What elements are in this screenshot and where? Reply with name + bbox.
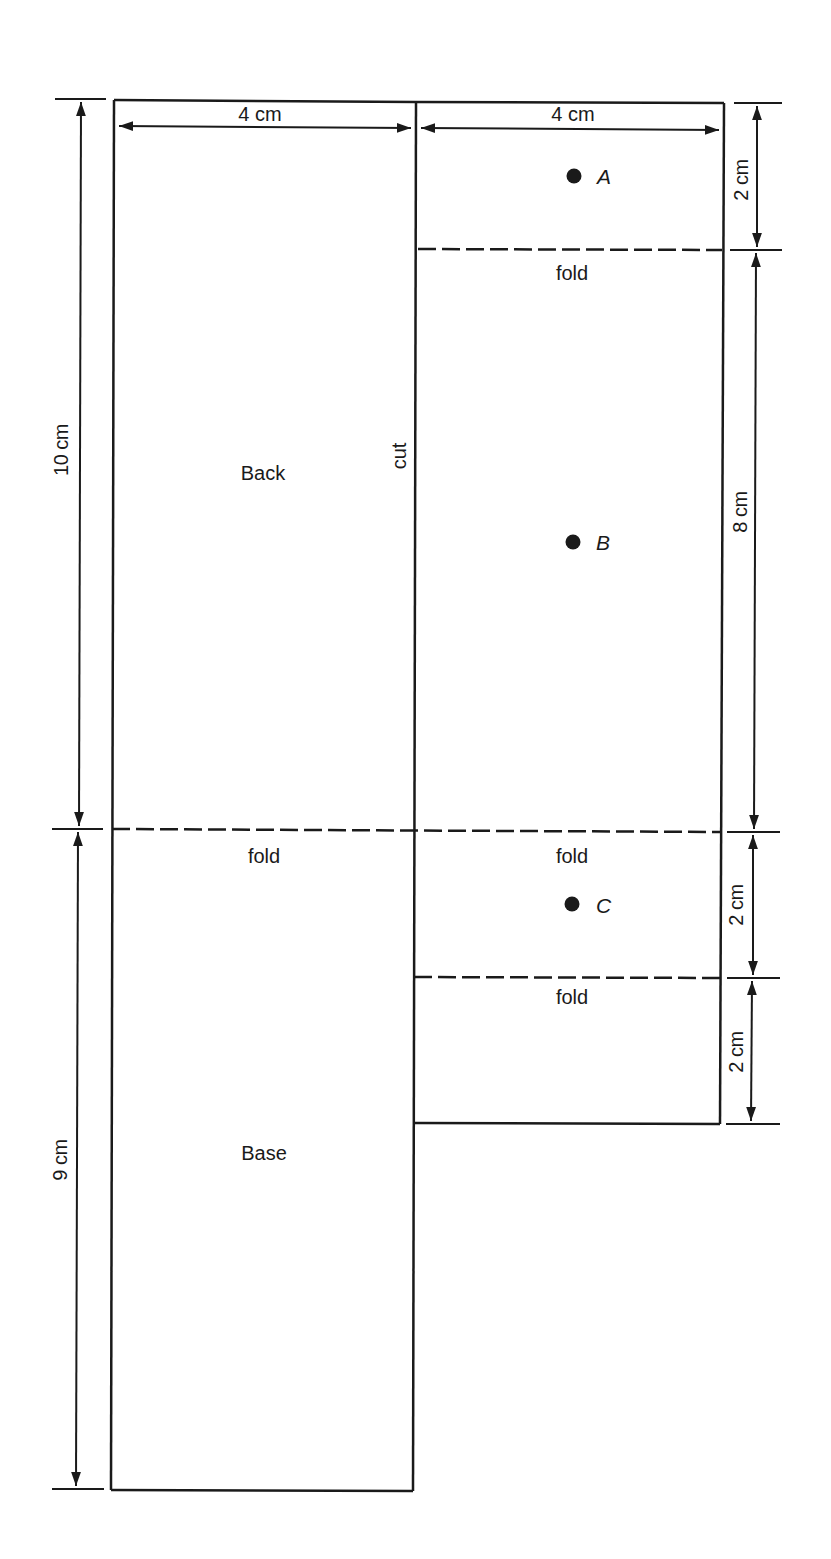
fold-label-right-bottom: fold xyxy=(556,986,588,1008)
dim-label-base-height: 9 cm xyxy=(49,1139,71,1180)
fold-label-right-middle: fold xyxy=(556,845,588,867)
net-diagram: 4 cm 4 cm 10 cm 9 cm 2 cm 8 cm 2 cm 2 cm… xyxy=(0,0,831,1559)
dim-label-left-width: 4 cm xyxy=(238,103,281,125)
cut-label: cut xyxy=(388,442,410,469)
dim-label-right-width: 4 cm xyxy=(551,103,594,125)
point-b-dot-icon xyxy=(566,535,581,550)
fold-label-right-top: fold xyxy=(556,262,588,284)
fold-line-right-bottom xyxy=(414,977,720,978)
dim-label-right-lower2: 2 cm xyxy=(725,1031,747,1072)
fold-line-right-top xyxy=(418,249,722,250)
point-b: B xyxy=(566,531,611,554)
fold-line-back-base xyxy=(112,829,721,832)
dim-arrow-right-lower2 xyxy=(751,981,752,1121)
point-b-label: B xyxy=(596,531,610,554)
extension-lines xyxy=(52,99,782,1489)
dim-label-right-lower1: 2 cm xyxy=(725,884,747,925)
dim-arrow-back-height xyxy=(79,102,81,826)
dim-arrow-right-width xyxy=(421,128,719,130)
panel-label-base: Base xyxy=(241,1142,287,1164)
fold-label-back-base: fold xyxy=(248,845,280,867)
point-c-dot-icon xyxy=(565,897,580,912)
left-panel-outline xyxy=(111,100,416,1491)
right-panel-outline xyxy=(414,102,724,1124)
point-a-dot-icon xyxy=(567,169,582,184)
point-a: A xyxy=(567,165,612,188)
dim-arrow-base-height xyxy=(76,832,78,1486)
dim-label-right-top: 2 cm xyxy=(730,159,752,200)
panel-label-back: Back xyxy=(241,462,286,484)
dim-arrow-right-middle xyxy=(754,253,756,829)
point-c: C xyxy=(565,894,613,917)
point-a-label: A xyxy=(595,165,611,188)
dim-label-back-height: 10 cm xyxy=(50,424,72,476)
dim-arrow-left-width xyxy=(119,126,411,128)
dim-label-right-middle: 8 cm xyxy=(729,491,751,532)
point-c-label: C xyxy=(596,894,612,917)
